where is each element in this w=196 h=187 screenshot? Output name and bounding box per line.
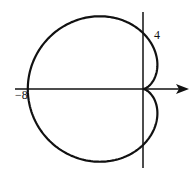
cardioid-plot [0, 0, 196, 187]
x-intercept-label: −8 [15, 88, 28, 103]
y-intercept-label: 4 [154, 28, 160, 43]
